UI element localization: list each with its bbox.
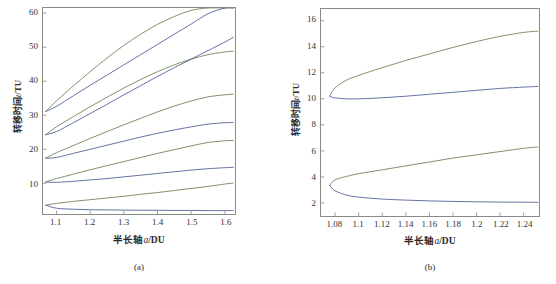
y-tick-label: 4 [286,173,316,182]
x-axis-title-text-b: 半长轴 [404,236,434,246]
y-tick-label: 60 [8,8,38,17]
y-axis-title-var-a: t [13,95,23,98]
x-tick-label: 1.22 [488,220,514,229]
x-tick-label: 1.16 [416,220,442,229]
panel-caption-a: (a) [42,262,236,272]
curve-upper-branch-blue-lower [330,86,538,98]
curve-branch-3-blue-lower [46,122,234,158]
x-axis-title-unit-b: /DU [439,236,455,246]
curve-lower-branch-green-upper [330,147,538,185]
y-tick-label: 20 [8,145,38,154]
x-tick-label: 1.12 [369,220,395,229]
curve-branch-5-blue-lower [46,8,234,112]
x-tick-label: 1.5 [179,218,205,227]
x-tick-label: 1.14 [393,220,419,229]
panel-caption-b: (b) [320,262,540,272]
x-axis-title-b: 半长轴a/DU [320,233,540,247]
plot-curves-b [321,9,539,216]
y-axis-title-text-b: 转移时间 [291,100,301,136]
y-axis-title-unit-b: /TU [291,83,301,98]
y-tick-label: 6 [286,147,316,156]
x-tick-label: 1.1 [345,220,371,229]
x-axis-title-unit-a: /DU [148,235,164,245]
x-tick-label: 1.6 [213,218,239,227]
figure-container: 102030405060 1.11.21.31.41.51.6 转移时间t/TU… [0,0,556,284]
plot-curves-a [43,8,235,214]
y-axis-title-b: 转移时间t/TU [289,75,302,145]
y-axis-title-a: 转移时间t/TU [11,72,24,142]
x-tick-label: 1.1 [43,218,69,227]
y-tick-label: 2 [286,199,316,208]
x-axis-title-a: 半长轴a/DU [42,232,236,246]
subplot-a: 102030405060 1.11.21.31.41.51.6 转移时间t/TU… [0,0,278,284]
curve-branch-1-green-upper [46,183,234,205]
curve-branch-2-blue-lower [46,167,234,182]
curve-branch-2-green-upper [46,140,234,182]
subplot-b: 246810121416 1.081.11.121.141.161.181.21… [278,0,556,284]
x-tick-label: 1.4 [145,218,171,227]
y-tick-label: 14 [286,42,316,51]
plot-area-b [320,8,540,217]
x-tick-label: 1.08 [321,220,347,229]
x-tick-label: 1.18 [440,220,466,229]
y-tick-label: 16 [286,15,316,24]
x-tick-label: 1.2 [464,220,490,229]
curve-upper-branch-green-upper [330,31,538,96]
plot-area-a [42,7,236,215]
y-axis-title-var-b: t [291,98,301,101]
curve-branch-3-green-upper [46,94,234,158]
x-tick-label: 1.3 [111,218,137,227]
y-tick-label: 10 [8,180,38,189]
x-axis-title-text-a: 半长轴 [113,235,143,245]
curve-branch-1-blue-lower [46,205,234,210]
y-axis-title-unit-a: /TU [13,80,23,95]
x-tick-label: 1.24 [512,220,538,229]
y-tick-label: 50 [8,42,38,51]
x-tick-label: 1.2 [77,218,103,227]
curve-lower-branch-blue-lower [330,185,538,202]
y-axis-title-text-a: 转移时间 [13,97,23,133]
